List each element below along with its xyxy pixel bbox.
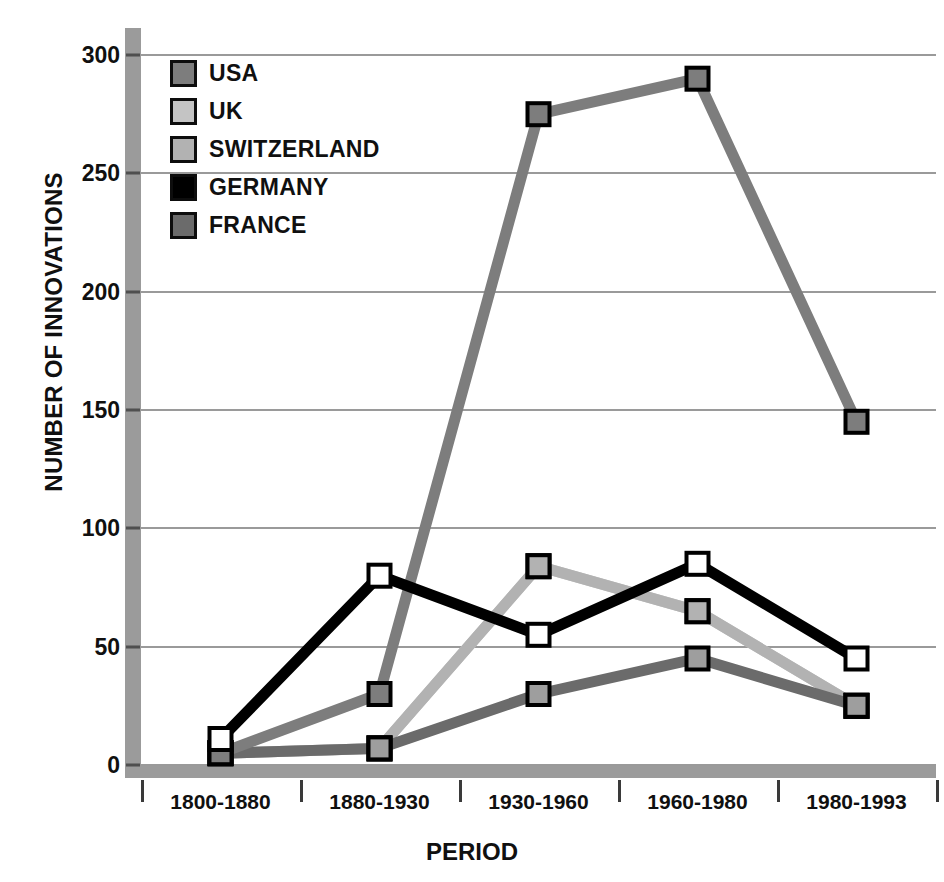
data-point-france-2[interactable] — [528, 683, 550, 705]
legend-item-germany[interactable]: GERMANY — [170, 172, 380, 202]
x-tick-mark-0 — [141, 780, 144, 802]
x-axis-title: PERIOD — [0, 838, 944, 866]
legend-swatch-icon-france — [170, 212, 197, 239]
legend-label: UK — [209, 100, 243, 123]
data-point-switzerland-2[interactable] — [528, 555, 550, 577]
legend: USAUKSWITZERLANDGERMANYFRANCE — [170, 58, 380, 240]
x-tick-label-4: 1980-1993 — [806, 790, 906, 814]
y-tick-mark-0 — [126, 764, 140, 767]
data-point-germany-2[interactable] — [528, 624, 550, 646]
y-tick-mark-50 — [126, 645, 140, 648]
legend-item-uk[interactable]: UK — [170, 96, 380, 126]
y-tick-mark-150 — [126, 409, 140, 412]
x-tick-mark-4 — [777, 780, 780, 802]
data-point-usa-4[interactable] — [846, 411, 868, 433]
legend-label: SWITZERLAND — [209, 138, 380, 161]
data-point-germany-0[interactable] — [210, 728, 232, 750]
data-point-germany-1[interactable] — [369, 565, 391, 587]
y-tick-mark-200 — [126, 290, 140, 293]
y-tick-mark-250 — [126, 172, 140, 175]
series-line-switzerland — [221, 566, 857, 753]
data-point-usa-2[interactable] — [528, 103, 550, 125]
legend-item-france[interactable]: FRANCE — [170, 210, 380, 240]
series-switzerland — [221, 566, 857, 753]
data-point-france-3[interactable] — [687, 648, 709, 670]
y-tick-mark-100 — [126, 527, 140, 530]
x-tick-label-3: 1960-1980 — [647, 790, 747, 814]
legend-label: FRANCE — [209, 214, 307, 237]
legend-swatch-icon-uk — [170, 98, 197, 125]
x-tick-mark-2 — [459, 780, 462, 802]
data-point-france-4[interactable] — [846, 695, 868, 717]
legend-swatch-icon-switzerland — [170, 136, 197, 163]
innovations-line-chart: NUMBER OF INNOVATIONS 300250200150100500… — [0, 0, 944, 882]
legend-item-usa[interactable]: USA — [170, 58, 380, 88]
data-point-germany-4[interactable] — [846, 648, 868, 670]
data-point-usa-1[interactable] — [369, 683, 391, 705]
y-tick-mark-300 — [126, 54, 140, 57]
x-tick-label-0: 1800-1880 — [170, 790, 270, 814]
series-line-uk — [221, 566, 857, 753]
x-tick-mark-1 — [300, 780, 303, 802]
legend-label: USA — [209, 62, 258, 85]
x-tick-label-2: 1930-1960 — [488, 790, 588, 814]
x-tick-mark-5 — [936, 780, 939, 802]
x-tick-label-1: 1880-1930 — [329, 790, 429, 814]
legend-label: GERMANY — [209, 176, 329, 199]
data-point-switzerland-3[interactable] — [687, 600, 709, 622]
data-point-germany-3[interactable] — [687, 553, 709, 575]
legend-item-switzerland[interactable]: SWITZERLAND — [170, 134, 380, 164]
data-point-france-1[interactable] — [369, 737, 391, 759]
series-overlay — [0, 0, 944, 882]
legend-swatch-icon-germany — [170, 174, 197, 201]
x-tick-mark-3 — [618, 780, 621, 802]
legend-swatch-icon-usa — [170, 60, 197, 87]
series-uk — [221, 566, 857, 753]
data-point-usa-3[interactable] — [687, 68, 709, 90]
